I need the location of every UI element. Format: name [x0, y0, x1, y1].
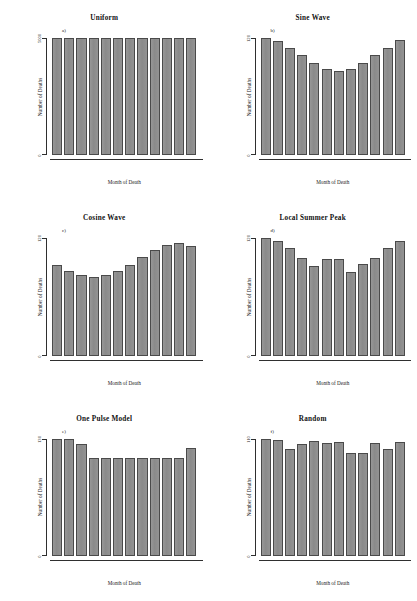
y-tick-label-max: 5000 — [37, 29, 42, 49]
bar — [150, 458, 160, 556]
bar-series-cosine-wave — [52, 238, 197, 355]
y-tick-label-min: 0 — [245, 346, 250, 366]
panel-title: Cosine Wave — [0, 214, 209, 222]
x-axis-line — [259, 360, 412, 361]
y-axis-title: Number of Deaths — [246, 469, 252, 525]
bar — [101, 275, 111, 355]
panel-sine-wave: Sine Wave b) 120 0 Number of Deaths Mont… — [209, 0, 417, 200]
y-tick-bottom — [42, 355, 46, 356]
y-axis-title: Number of Deaths — [246, 69, 252, 125]
panel-uniform: Uniform a) 5000 0 Number of Deaths Month… — [0, 0, 209, 200]
bar — [162, 245, 172, 355]
y-tick-top — [42, 238, 46, 239]
x-axis-title: Month of Death — [52, 580, 197, 586]
bar — [395, 442, 405, 556]
x-axis-title: Month of Death — [261, 580, 406, 586]
bar — [174, 458, 184, 556]
y-tick-label-max: 120 — [245, 229, 250, 249]
y-tick-label-min: 0 — [245, 546, 250, 566]
y-tick-bottom — [42, 555, 46, 556]
bar — [285, 449, 295, 556]
bar — [395, 40, 405, 155]
bar — [346, 69, 356, 155]
bar — [334, 442, 344, 556]
bar — [89, 277, 99, 355]
plot-area: c) 120 0 Number of Deaths Month of Death — [52, 238, 197, 355]
bar — [346, 453, 356, 556]
panel-letter: c) — [62, 228, 66, 233]
panel-letter: f) — [271, 429, 274, 434]
figure-panel-grid: Uniform a) 5000 0 Number of Deaths Month… — [0, 0, 417, 601]
bar — [162, 38, 172, 155]
panel-local-summer-peak: Local Summer Peak d) 120 0 Number of Dea… — [209, 200, 417, 400]
y-tick-label-min: 0 — [245, 146, 250, 166]
bar — [261, 38, 271, 155]
bar — [89, 38, 99, 155]
bar — [334, 71, 344, 155]
bar — [76, 444, 86, 556]
bar — [64, 439, 74, 556]
bar — [64, 271, 74, 356]
panel-title: Uniform — [0, 14, 209, 22]
y-tick-top — [42, 38, 46, 39]
bar — [322, 259, 332, 356]
bar — [76, 275, 86, 355]
y-axis-line — [255, 38, 256, 155]
plot-area: a) 5000 0 Number of Deaths Month of Deat… — [52, 38, 197, 155]
panel-title: Random — [209, 415, 417, 423]
bar — [174, 38, 184, 155]
y-tick-label-min: 0 — [37, 546, 42, 566]
bar — [285, 48, 295, 156]
x-axis-line — [259, 159, 412, 160]
bar — [113, 38, 123, 155]
panel-letter: e) — [62, 429, 66, 434]
panel-letter: a) — [62, 28, 66, 33]
bar — [358, 453, 368, 556]
bar — [297, 444, 307, 556]
y-axis-line — [255, 439, 256, 556]
bar — [358, 63, 368, 155]
x-axis-title: Month of Death — [261, 179, 406, 185]
x-axis-line — [50, 159, 203, 160]
y-tick-label-min: 0 — [37, 346, 42, 366]
bar — [273, 41, 283, 155]
bar-series-one-pulse-model — [52, 439, 197, 556]
bar — [334, 259, 344, 356]
bar — [52, 38, 62, 155]
bar — [52, 439, 62, 556]
bar — [358, 264, 368, 356]
bar — [125, 265, 135, 356]
x-axis-line — [50, 360, 203, 361]
bar — [137, 458, 147, 556]
bar — [383, 449, 393, 556]
panel-random: Random f) 110 0 Number of Deaths Month o… — [209, 401, 417, 601]
bar — [113, 458, 123, 556]
bar — [52, 265, 62, 356]
bar — [273, 440, 283, 556]
y-tick-label-max: 120 — [245, 29, 250, 49]
plot-area: b) 120 0 Number of Deaths Month of Death — [261, 38, 406, 155]
bar — [261, 439, 271, 556]
bar — [322, 69, 332, 155]
x-axis-line — [259, 560, 412, 561]
y-tick-top — [251, 238, 255, 239]
y-tick-top — [251, 38, 255, 39]
y-axis-title: Number of Deaths — [37, 269, 43, 325]
bar-series-uniform — [52, 38, 197, 155]
y-tick-top — [251, 439, 255, 440]
panel-title: Local Summer Peak — [209, 214, 417, 222]
panel-letter: b) — [271, 28, 275, 33]
bar — [285, 248, 295, 356]
bar — [395, 241, 405, 355]
bar — [150, 38, 160, 155]
y-tick-bottom — [251, 355, 255, 356]
bar — [261, 238, 271, 355]
y-tick-label-max: 130 — [37, 429, 42, 449]
panel-title: Sine Wave — [209, 14, 417, 22]
bar — [383, 48, 393, 156]
bar — [383, 248, 393, 356]
plot-area: d) 120 0 Number of Deaths Month of Death — [261, 238, 406, 355]
bar — [297, 55, 307, 156]
bar — [150, 250, 160, 356]
y-axis-line — [255, 238, 256, 355]
